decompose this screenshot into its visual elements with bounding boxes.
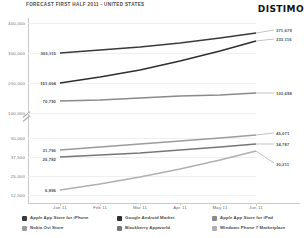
end-label-blackberry-appworld: 34,787 <box>276 142 289 147</box>
legend-label: Apple App Store for iPad <box>220 214 273 221</box>
x-tick-jun: Jun 11 <box>249 205 263 210</box>
legend-swatch-icon <box>117 226 122 231</box>
x-tick-apr: Apr 11 <box>173 205 187 210</box>
legend-label: Nokia Ovi Store <box>30 224 64 231</box>
x-tick-jan: Jan 11 <box>53 205 67 210</box>
legend-item-apple-iphone[interactable]: Apple App Store for iPhone <box>22 214 117 223</box>
line-nokia-ovi <box>60 135 256 150</box>
start-label-google-android: 151,004 <box>30 81 56 86</box>
start-label-apple-iphone: 303,115 <box>30 51 56 56</box>
legend-item-windows-phone7[interactable]: Windows Phone 7 Marketplace <box>212 224 307 233</box>
line-windows-phone7 <box>60 151 256 190</box>
x-tick-may: May 11 <box>213 205 228 210</box>
legend-column-3: Apple App Store for iPad Windows Phone 7… <box>212 214 307 234</box>
legend-item-apple-ipad[interactable]: Apple App Store for iPad <box>212 214 307 223</box>
legend-swatch-icon <box>22 216 27 221</box>
start-label-apple-ipad: 70,790 <box>30 99 56 104</box>
forecast-chart: FORECAST FIRST HALF 2011 - UNITED STATES… <box>0 0 308 238</box>
legend-item-blackberry-appworld[interactable]: Blackberry Appworld <box>117 224 212 233</box>
legend-item-google-android[interactable]: Google Android Market <box>117 214 212 223</box>
legend-swatch-icon <box>212 226 217 231</box>
line-blackberry-appworld <box>60 144 256 157</box>
legend-column-1: Apple App Store for iPhone Nokia Ovi Sto… <box>22 214 117 234</box>
line-apple-ipad <box>60 93 256 101</box>
end-label-nokia-ovi: 45,071 <box>276 131 289 136</box>
x-tick-feb: Feb 11 <box>93 205 107 210</box>
legend-swatch-icon <box>117 216 122 221</box>
start-label-blackberry-appworld: 26,782 <box>30 157 56 162</box>
end-label-apple-ipad: 103,698 <box>276 91 292 96</box>
line-google-android <box>60 41 256 83</box>
legend-item-nokia-ovi[interactable]: Nokia Ovi Store <box>22 224 117 233</box>
legend-label: Google Android Market <box>125 214 174 221</box>
legend-label: Windows Phone 7 Marketplace <box>220 224 285 231</box>
legend-swatch-icon <box>212 216 217 221</box>
legend-label: Apple App Store for iPhone <box>30 214 89 221</box>
legend-swatch-icon <box>22 226 27 231</box>
line-apple-iphone <box>60 33 256 53</box>
start-label-nokia-ovi: 31,790 <box>30 148 56 153</box>
series-lines <box>0 0 308 238</box>
x-tick-mar: Mar 11 <box>133 205 147 210</box>
end-label-google-android: 333,116 <box>276 37 292 42</box>
legend-label: Blackberry Appworld <box>125 224 170 231</box>
legend-column-2: Google Android Market Blackberry Appworl… <box>117 214 212 234</box>
start-label-windows-phone7: 6,896 <box>30 188 56 193</box>
chart-legend: Apple App Store for iPhone Nokia Ovi Sto… <box>22 214 308 236</box>
end-label-windows-phone7: 30,211 <box>276 162 289 167</box>
end-label-apple-iphone: 371,679 <box>276 28 292 33</box>
